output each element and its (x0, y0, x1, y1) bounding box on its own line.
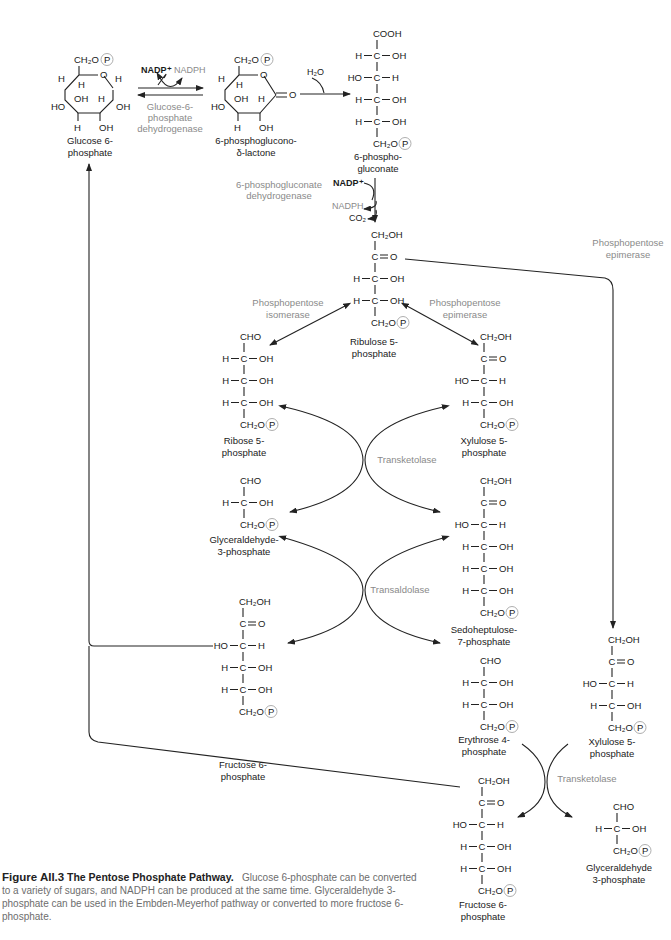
svg-text:C: C (374, 72, 381, 83)
svg-text:phosphate: phosphate (148, 112, 192, 123)
svg-text:CHO: CHO (240, 475, 261, 486)
svg-text:CH₂O: CH₂O (239, 706, 264, 717)
svg-text:C: C (481, 519, 488, 530)
ribose-5-phosphate-label: Ribose 5- (224, 435, 265, 446)
svg-text:H: H (222, 497, 229, 508)
6-phosphogluconate-label: 6-phospho- (354, 151, 402, 162)
svg-text:C: C (609, 678, 616, 689)
svg-text:H: H (222, 353, 229, 364)
svg-text:P: P (509, 721, 515, 732)
nadph-cofactor: NADPH (174, 65, 206, 75)
erythrose-4-phosphate-structure: CHOCHOHCHOHCH₂OP (462, 655, 518, 733)
svg-text:HO: HO (51, 101, 65, 112)
svg-text:CH₂O: CH₂O (480, 721, 505, 732)
svg-text:C: C (609, 700, 616, 711)
co2-cofactor: CO₂ (349, 213, 367, 223)
svg-text:H: H (236, 79, 243, 90)
svg-text:CH₂OH: CH₂OH (480, 331, 512, 342)
svg-text:H: H (353, 295, 360, 306)
svg-text:CHO: CHO (240, 331, 261, 342)
svg-text:H: H (355, 94, 362, 105)
svg-text:OH: OH (74, 93, 88, 104)
svg-text:O: O (260, 69, 267, 80)
svg-text:dehydrogenase: dehydrogenase (246, 190, 312, 201)
svg-text:C: C (372, 295, 379, 306)
svg-text:H: H (258, 93, 265, 104)
svg-text:H: H (115, 73, 122, 84)
svg-text:H: H (462, 397, 469, 408)
svg-text:CH₂O: CH₂O (480, 419, 505, 430)
svg-text:P: P (269, 419, 275, 430)
svg-text:CH₂O: CH₂O (74, 54, 99, 65)
svg-text:C: C (240, 662, 247, 673)
svg-text:CH₂OH: CH₂OH (608, 634, 640, 645)
svg-text:OH: OH (390, 295, 404, 306)
svg-text:H: H (627, 678, 634, 689)
svg-text:P: P (509, 419, 515, 430)
svg-text:C: C (241, 397, 248, 408)
svg-text:C: C (481, 497, 488, 508)
svg-text:P: P (268, 706, 274, 717)
svg-text:H: H (221, 662, 228, 673)
svg-text:CH₂O: CH₂O (478, 885, 503, 896)
xylulose-5-phosphate-label: Xylulose 5- (461, 435, 508, 446)
enzyme-transaldolase: Transaldolase (370, 584, 429, 595)
svg-text:phosphate: phosphate (462, 447, 506, 458)
svg-text:H: H (353, 273, 360, 284)
svg-text:C: C (241, 353, 248, 364)
svg-text:H: H (590, 700, 597, 711)
svg-text:C: C (481, 677, 488, 688)
svg-text:H: H (595, 823, 602, 834)
glyceraldehyde-3-phosphate-label: Glyceraldehyde- (209, 534, 278, 545)
sedoheptulose-7-phosphate-structure: CH₂OHCOCHOHCHOHCHOHCHOHCH₂OP (455, 475, 518, 619)
enzyme-isomerase: Phosphopentose (252, 297, 323, 308)
svg-text:HO: HO (453, 819, 467, 830)
svg-text:C: C (481, 699, 488, 710)
svg-text:H: H (499, 375, 506, 386)
glyceraldehyde-3-phosphate-b-label: Glyceraldehyde (586, 862, 652, 873)
svg-text:HO: HO (348, 72, 362, 83)
svg-text:phosphate: phosphate (462, 746, 506, 757)
svg-text:H: H (392, 72, 399, 83)
svg-text:CH₂OH: CH₂OH (239, 596, 271, 607)
svg-text:P: P (264, 54, 270, 65)
enzyme-transketolase-b: Transketolase (557, 773, 616, 784)
svg-text:HO: HO (455, 519, 469, 530)
svg-text:CH₂O: CH₂O (371, 317, 396, 328)
svg-text:OH: OH (234, 93, 248, 104)
svg-text:HO: HO (214, 640, 228, 651)
svg-text:OH: OH (258, 662, 272, 673)
svg-text:7-phosphate: 7-phosphate (458, 636, 511, 647)
svg-text:OH: OH (499, 563, 513, 574)
svg-text:C: C (374, 50, 381, 61)
svg-text:H: H (78, 79, 85, 90)
svg-text:H: H (355, 116, 362, 127)
h2o-cofactor: H₂O (307, 67, 324, 77)
svg-text:H: H (222, 397, 229, 408)
svg-text:phosphate: phosphate (221, 771, 265, 782)
svg-text:3-phosphate: 3-phosphate (218, 546, 271, 557)
svg-text:H: H (221, 684, 228, 695)
svg-text:C: C (481, 353, 488, 364)
svg-text:OH: OH (259, 375, 273, 386)
svg-text:C: C (481, 585, 488, 596)
xylulose-5-phosphate-structure: CH₂OHCOCHOHCHOHCH₂OP (455, 331, 518, 431)
svg-text:OH: OH (259, 497, 273, 508)
svg-text:C: C (479, 819, 486, 830)
svg-text:CH₂OH: CH₂OH (371, 229, 403, 240)
ribose-5-phosphate-structure: CHOCHOHCHOHCHOHCH₂OP (222, 331, 278, 431)
svg-text:HO: HO (211, 101, 225, 112)
svg-text:OH: OH (392, 116, 406, 127)
svg-text:OH: OH (632, 823, 646, 834)
svg-text:P: P (509, 607, 515, 618)
enzyme-6pgdh: 6-phosphogluconate (236, 179, 322, 190)
svg-text:H: H (222, 375, 229, 386)
svg-text:HO: HO (583, 678, 597, 689)
6-phosphogluconate-structure: COOHCHOHCHOHCHOHCHOHCH₂OP (348, 28, 411, 150)
enzyme-g6pdh: Glucose-6- (147, 101, 193, 112)
figure-title: The Pentose Phosphate Pathway. (67, 871, 234, 883)
svg-text:OH: OH (627, 700, 641, 711)
svg-text:C: C (374, 94, 381, 105)
fructose-6-phosphate-structure: CH₂OHCOCHOHCHOHCHOHCH₂OP (214, 596, 277, 718)
figure-caption: Figure AII.3 The Pentose Phosphate Pathw… (2, 871, 422, 923)
